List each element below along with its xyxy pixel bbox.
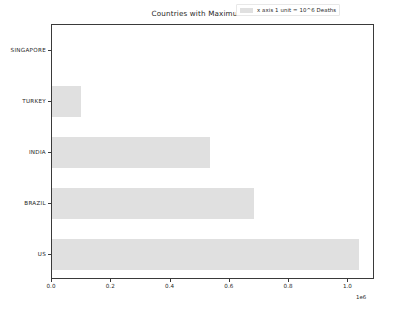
plot-axes [51, 24, 374, 279]
y-tick-mark [48, 50, 51, 51]
x-tick-label: 0.8 [284, 283, 293, 289]
bars-layer [52, 25, 373, 278]
y-tick-mark [48, 254, 51, 255]
bar-brazil [52, 188, 254, 220]
bar-turkey [52, 86, 81, 118]
y-tick-label-us: US [38, 251, 46, 257]
x-tick-label: 0.6 [224, 283, 233, 289]
y-tick-mark [48, 203, 51, 204]
y-tick-label-turkey: TURKEY [22, 98, 46, 104]
x-tick-label: 0.4 [165, 283, 174, 289]
chart-legend: x axis 1 unit = 10^6 Deaths [236, 4, 340, 16]
y-tick-label-singapore: SINGAPORE [11, 47, 46, 53]
y-tick-label-india: INDIA [29, 149, 46, 155]
legend-swatch-icon [240, 8, 253, 13]
y-tick-mark [48, 101, 51, 102]
y-tick-label-brazil: BRAZIL [24, 200, 46, 206]
bar-us [52, 239, 359, 271]
x-tick-mark [110, 279, 111, 282]
x-tick-mark [347, 279, 348, 282]
legend-label: x axis 1 unit = 10^6 Deaths [257, 7, 336, 13]
x-tick-label: 1.0 [343, 283, 352, 289]
x-tick-label: 0.0 [47, 283, 56, 289]
x-tick-mark [229, 279, 230, 282]
x-axis-offset-label: 1e6 [356, 294, 366, 300]
x-tick-mark [170, 279, 171, 282]
chart-figure: Countries with Maximum Deaths SINGAPORET… [0, 0, 396, 315]
x-tick-mark [288, 279, 289, 282]
bar-india [52, 137, 210, 169]
x-tick-mark [51, 279, 52, 282]
y-tick-mark [48, 152, 51, 153]
x-tick-label: 0.2 [106, 283, 115, 289]
